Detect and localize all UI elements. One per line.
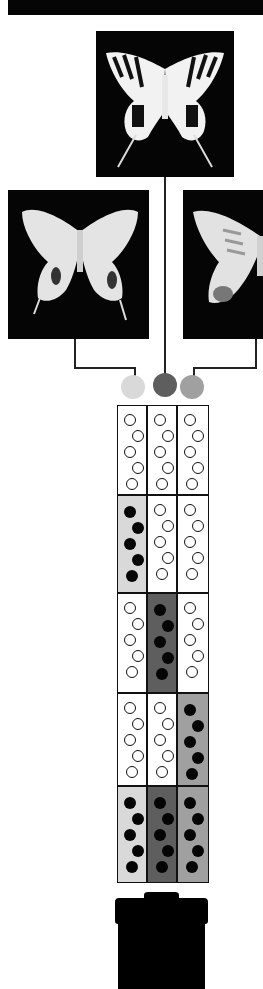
connector-left-across (74, 367, 136, 369)
filled-dot-icon (184, 829, 196, 841)
butterfly-left-icon (8, 190, 149, 339)
open-dot-icon (184, 504, 196, 516)
allele-circle-dark (153, 373, 177, 397)
open-dot-icon (184, 414, 196, 426)
butterfly-frame-top (96, 31, 234, 177)
grid-cell (147, 495, 177, 593)
filled-dot-icon (192, 845, 204, 857)
open-dot-icon (124, 602, 136, 614)
open-dot-icon (132, 718, 144, 730)
filled-dot-icon (184, 797, 196, 809)
open-dot-icon (162, 718, 174, 730)
open-dot-icon (156, 568, 168, 580)
allele-grid (117, 405, 209, 883)
open-dot-icon (126, 666, 138, 678)
open-dot-icon (186, 666, 198, 678)
open-dot-icon (124, 446, 136, 458)
grid-cell (147, 593, 177, 693)
connector-top (164, 177, 166, 375)
filled-dot-icon (132, 522, 144, 534)
filled-dot-icon (132, 813, 144, 825)
filled-dot-icon (184, 736, 196, 748)
open-dot-icon (126, 766, 138, 778)
filled-dot-icon (124, 538, 136, 550)
grid-cell (117, 495, 147, 593)
allele-circle-light (121, 375, 145, 399)
open-dot-icon (132, 430, 144, 442)
filled-dot-icon (192, 752, 204, 764)
filled-dot-icon (154, 797, 166, 809)
open-dot-icon (154, 734, 166, 746)
open-dot-icon (192, 552, 204, 564)
allele-circle-medium (180, 375, 204, 399)
connector-left-down (74, 339, 76, 369)
open-dot-icon (184, 536, 196, 548)
filled-dot-icon (186, 768, 198, 780)
open-dot-icon (132, 750, 144, 762)
open-dot-icon (186, 478, 198, 490)
butterfly-right-icon (183, 190, 263, 339)
butterfly-frame-right (183, 190, 263, 339)
grid-cell (117, 593, 147, 693)
filled-dot-icon (126, 861, 138, 873)
filled-dot-icon (124, 506, 136, 518)
open-dot-icon (184, 446, 196, 458)
open-dot-icon (154, 702, 166, 714)
open-dot-icon (132, 650, 144, 662)
connector-right-across (193, 367, 257, 369)
filled-dot-icon (162, 845, 174, 857)
open-dot-icon (162, 462, 174, 474)
grid-cell (147, 786, 177, 883)
open-dot-icon (124, 634, 136, 646)
filled-dot-icon (156, 668, 168, 680)
filled-dot-icon (184, 704, 196, 716)
open-dot-icon (186, 568, 198, 580)
open-dot-icon (184, 634, 196, 646)
filled-dot-icon (162, 652, 174, 664)
grid-cell (177, 786, 209, 883)
filled-dot-icon (126, 570, 138, 582)
grid-cell (147, 693, 177, 786)
grid-cell (147, 405, 177, 495)
connector-right-down (255, 339, 257, 369)
open-dot-icon (192, 618, 204, 630)
grid-cell (117, 693, 147, 786)
filled-dot-icon (154, 636, 166, 648)
open-dot-icon (192, 462, 204, 474)
container-icon (114, 891, 209, 989)
grid-cell (117, 786, 147, 883)
butterfly-top-icon (96, 31, 234, 177)
filled-dot-icon (192, 813, 204, 825)
open-dot-icon (154, 446, 166, 458)
open-dot-icon (162, 552, 174, 564)
filled-dot-icon (156, 861, 168, 873)
open-dot-icon (154, 414, 166, 426)
open-dot-icon (162, 750, 174, 762)
open-dot-icon (192, 430, 204, 442)
filled-dot-icon (162, 813, 174, 825)
filled-dot-icon (124, 829, 136, 841)
grid-cell (177, 405, 209, 495)
open-dot-icon (124, 702, 136, 714)
filled-dot-icon (154, 829, 166, 841)
butterfly-frame-left (8, 190, 149, 339)
filled-dot-icon (162, 620, 174, 632)
filled-dot-icon (132, 845, 144, 857)
grid-cell (177, 495, 209, 593)
open-dot-icon (184, 602, 196, 614)
open-dot-icon (162, 430, 174, 442)
filled-dot-icon (192, 720, 204, 732)
open-dot-icon (192, 650, 204, 662)
open-dot-icon (132, 618, 144, 630)
top-bar (8, 0, 263, 15)
open-dot-icon (132, 462, 144, 474)
filled-dot-icon (154, 604, 166, 616)
open-dot-icon (154, 504, 166, 516)
grid-cell (117, 405, 147, 495)
open-dot-icon (156, 766, 168, 778)
open-dot-icon (124, 414, 136, 426)
open-dot-icon (126, 478, 138, 490)
filled-dot-icon (186, 861, 198, 873)
grid-cell (177, 593, 209, 693)
grid-cell (177, 693, 209, 786)
